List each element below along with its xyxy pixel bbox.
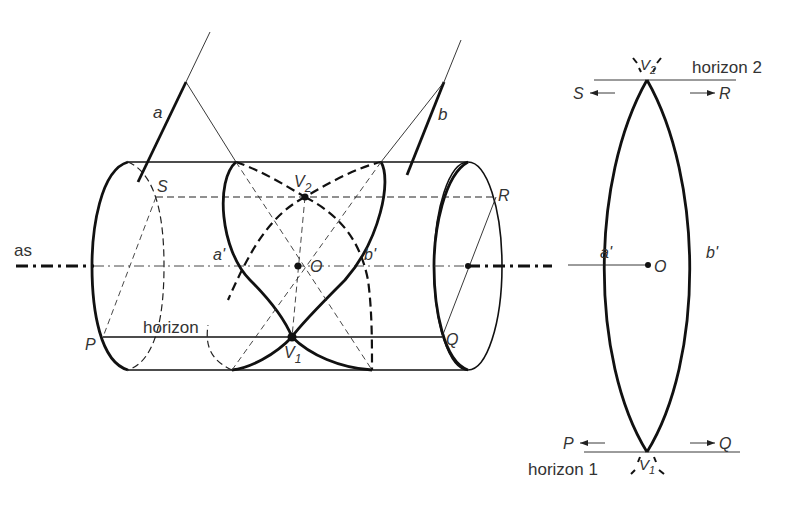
curve-bottom-left-dashed [207, 325, 232, 370]
center-O-label: O [310, 258, 322, 275]
lens-center-point [645, 262, 651, 268]
ray-a-branch [186, 82, 236, 162]
ray-b-label: b [438, 105, 447, 124]
dev-curve-b-prime-label: b' [706, 244, 719, 261]
dev-vertex-V1-label: V1 [639, 456, 655, 476]
arrow-R [690, 90, 715, 96]
vertex-V1-point [288, 333, 297, 342]
point-Q-label: Q [446, 331, 458, 348]
dev-center-O-label: O [654, 258, 666, 275]
arrow-P [580, 440, 605, 446]
arrow-Q [690, 440, 715, 446]
point-R-label: R [498, 187, 510, 204]
ray-a-label: a [153, 103, 162, 122]
point-P-label: P [85, 336, 96, 353]
ray-a [138, 82, 186, 182]
dev-curve-a-prime-label: a' [600, 244, 613, 261]
cylinder-helix-diagram: as a b S R P Q V2 V1 O a' b' horizon [0, 0, 786, 506]
horizon-1-label: horizon 1 [528, 460, 598, 479]
cylinder-view: as a b S R P Q V2 V1 O a' b' horizon [14, 32, 552, 370]
center-O-point [295, 263, 302, 270]
ray-b [407, 82, 444, 175]
ray-a-thin [186, 32, 210, 82]
arrow-Q-label: Q [719, 435, 731, 452]
arrow-S [590, 90, 615, 96]
lens-curve-a-prime [604, 80, 647, 452]
curve-b-prime-label: b' [364, 246, 377, 263]
vertex-V1-label: V1 [284, 344, 301, 366]
horizon-label: horizon [143, 318, 199, 337]
horizon-2-label: horizon 2 [692, 58, 762, 77]
arrow-R-label: R [719, 85, 731, 102]
vertex-V2-label: V2 [294, 173, 312, 195]
ray-b-branch [381, 82, 444, 162]
ray-b-thin [444, 40, 461, 82]
point-S-label: S [157, 178, 168, 195]
curve-a-prime-label: a' [213, 246, 226, 263]
axis-label: as [14, 241, 32, 260]
axis-end-point [465, 263, 471, 269]
development-view: V2 V1 horizon 2 horizon 1 S R P Q a' b' … [528, 56, 762, 479]
arrow-S-label: S [573, 85, 584, 102]
line-S-P [103, 197, 156, 337]
arrow-P-label: P [563, 435, 574, 452]
dev-vertex-V2-label: V2 [640, 56, 656, 76]
